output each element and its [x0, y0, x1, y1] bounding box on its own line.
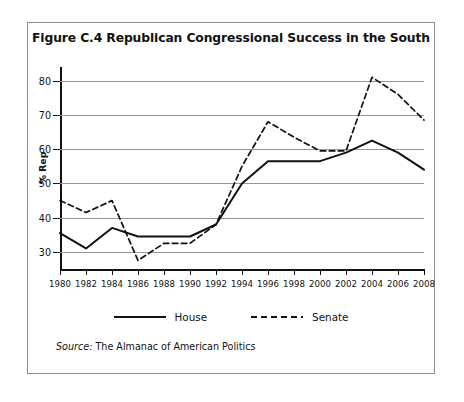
x-tick-label-1998: 1998	[283, 279, 305, 289]
x-tick-1992	[216, 269, 217, 275]
y-tick-label-30: 30	[39, 246, 51, 257]
x-tick-1994	[242, 269, 243, 275]
x-tick-2004	[372, 269, 373, 275]
x-tick-2006	[398, 269, 399, 275]
x-tick-1988	[164, 269, 165, 275]
figure-container: Figure C.4 Republican Congressional Succ…	[27, 22, 435, 374]
y-tick-70	[53, 115, 60, 116]
x-tick-1986	[138, 269, 139, 275]
legend-swatch-solid-icon	[114, 313, 166, 321]
x-tick-label-1982: 1982	[75, 279, 97, 289]
y-tick-40	[53, 218, 60, 219]
x-tick-label-2004: 2004	[361, 279, 383, 289]
y-tick-label-70: 70	[39, 109, 51, 120]
y-tick-80	[53, 81, 60, 82]
x-tick-label-1990: 1990	[179, 279, 201, 289]
x-tick-1990	[190, 269, 191, 275]
legend-item-senate: Senate	[251, 311, 348, 323]
legend-item-house: House	[114, 311, 208, 323]
y-tick-label-80: 80	[39, 75, 51, 86]
y-tick-label-60: 60	[39, 144, 51, 155]
y-tick-30	[53, 252, 60, 253]
series-line-senate	[60, 77, 424, 260]
x-tick-1980	[60, 269, 61, 275]
chart-plot-area: % Rep 304050607080 198019821984198619881…	[60, 67, 424, 269]
y-tick-label-50: 50	[39, 178, 51, 189]
source-label: Source:	[56, 341, 92, 352]
x-tick-label-2000: 2000	[309, 279, 331, 289]
y-tick-label-40: 40	[39, 212, 51, 223]
legend-label-senate: Senate	[312, 311, 348, 323]
x-tick-label-1996: 1996	[257, 279, 279, 289]
legend-swatch-dashed-icon	[251, 313, 303, 321]
x-tick-label-2002: 2002	[335, 279, 357, 289]
x-tick-1996	[268, 269, 269, 275]
x-tick-2000	[320, 269, 321, 275]
x-tick-label-1994: 1994	[231, 279, 253, 289]
source-note: Source: The Almanac of American Politics	[56, 341, 255, 352]
source-text: The Almanac of American Politics	[92, 341, 255, 352]
x-tick-label-1980: 1980	[49, 279, 71, 289]
legend-label-house: House	[175, 311, 208, 323]
chart-series-layer	[60, 67, 424, 269]
y-tick-60	[53, 149, 60, 150]
y-tick-50	[53, 183, 60, 184]
x-tick-2002	[346, 269, 347, 275]
chart-legend: House Senate	[28, 311, 434, 323]
series-line-house	[60, 141, 424, 249]
x-tick-1982	[86, 269, 87, 275]
x-tick-label-1986: 1986	[127, 279, 149, 289]
x-tick-label-1992: 1992	[205, 279, 227, 289]
x-tick-1998	[294, 269, 295, 275]
x-tick-label-2008: 2008	[413, 279, 435, 289]
x-tick-2008	[424, 269, 425, 275]
x-tick-1984	[112, 269, 113, 275]
figure-title: Figure C.4 Republican Congressional Succ…	[28, 31, 434, 45]
x-tick-label-2006: 2006	[387, 279, 409, 289]
x-tick-label-1988: 1988	[153, 279, 175, 289]
x-tick-label-1984: 1984	[101, 279, 123, 289]
